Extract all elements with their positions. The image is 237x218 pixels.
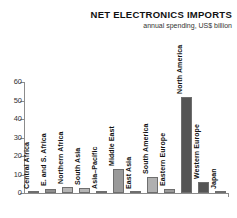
bar-category-label: South America — [142, 124, 149, 174]
x-axis-end-tick — [228, 193, 229, 197]
chart-title: NET ELECTRONICS IMPORTS — [0, 9, 232, 20]
chart-title-block: NET ELECTRONICS IMPORTS annual spending,… — [0, 9, 232, 31]
bar — [96, 191, 107, 193]
bar-category-label: Eastern Europe — [159, 132, 166, 185]
plot-area: 0102030405060 Central AfricaE. and S. Af… — [24, 82, 229, 193]
bar — [79, 188, 90, 193]
bar-category-label: E. and S. Africa — [40, 133, 47, 186]
y-tick-0: 0 — [24, 193, 28, 194]
y-tick-label: 30 — [14, 133, 22, 142]
bar-category-label: Northern Africa — [57, 132, 64, 185]
bar — [181, 97, 192, 193]
bar — [130, 191, 141, 193]
bar-group: Japan — [212, 82, 229, 193]
bar-category-label: Japan — [210, 168, 217, 189]
bar-category-label: Western Europe — [193, 124, 200, 179]
bar — [198, 182, 209, 193]
bar-category-label: Central Africa — [23, 142, 30, 189]
bar — [113, 169, 124, 193]
bar-category-label: South Asia — [74, 148, 81, 185]
bar-category-label: Asia–Pacific — [91, 147, 98, 189]
chart-subtitle: annual spending, US$ billion — [0, 21, 232, 31]
bar — [164, 189, 175, 193]
x-axis-line — [24, 193, 229, 194]
y-tick-label: 20 — [14, 151, 22, 160]
bar-category-label: North America — [176, 45, 183, 94]
bar — [62, 187, 73, 193]
bar — [28, 191, 39, 193]
bar — [147, 177, 158, 193]
bar-category-label: Middle East — [108, 126, 115, 166]
y-tick-label: 40 — [14, 114, 22, 123]
bar-group: Eastern Europe — [161, 82, 178, 193]
y-tick-label: 50 — [14, 96, 22, 105]
bar-series: Central AfricaE. and S. AfricaNorthern A… — [25, 82, 229, 193]
bar-category-label: East Asia — [125, 157, 132, 189]
bar — [215, 191, 226, 193]
bar — [45, 189, 56, 193]
y-tick-label: 10 — [14, 170, 22, 179]
y-tick-label: 60 — [14, 77, 22, 86]
net-electronics-imports-chart: NET ELECTRONICS IMPORTS annual spending,… — [0, 0, 237, 218]
y-tick-label: 0 — [18, 188, 22, 197]
